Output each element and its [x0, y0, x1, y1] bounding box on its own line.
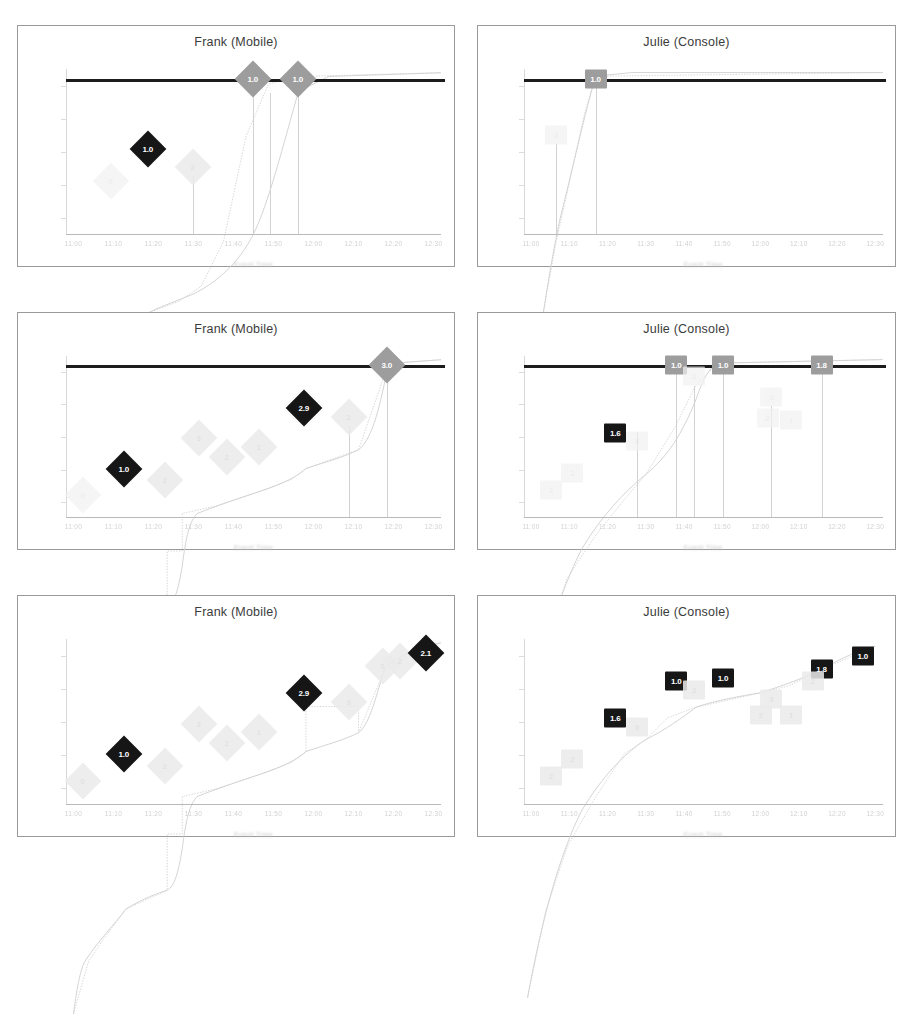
data-point-label: 2 — [191, 162, 195, 171]
data-point-marker: 2 — [561, 749, 583, 768]
x-axis-tick-label: 12:10 — [790, 240, 808, 247]
data-point-marker: 2 — [750, 705, 772, 724]
x-axis-tick-label: 12:00 — [752, 523, 770, 530]
x-axis-tick-label: 12:20 — [828, 240, 846, 247]
chart-title: Frank (Mobile) — [18, 322, 454, 336]
x-axis-title: Event Time — [66, 261, 441, 268]
data-point-label: 2 — [692, 685, 696, 694]
x-axis-tick-label: 11:30 — [185, 810, 202, 817]
x-axis-tick-label: 11:10 — [105, 810, 122, 817]
data-point-label: 2.9 — [299, 404, 310, 413]
data-point-label: 3 — [635, 722, 639, 731]
data-point-marker: 1 — [780, 410, 802, 429]
marker-drop-line — [822, 374, 823, 518]
chart-title: Julie (Console) — [478, 605, 895, 619]
data-point-label: 2 — [549, 486, 553, 495]
x-axis-tick-label: 11:40 — [225, 523, 242, 530]
marker-drop-line — [596, 88, 597, 235]
panel-cell-frank-row3: Frank (Mobile)01.023212.93022.111:0011:1… — [0, 570, 472, 857]
data-point-marker: 1.0 — [852, 647, 874, 666]
data-point-label: 1.0 — [293, 74, 304, 83]
panel-cell-julie-row3: Julie (Console)221.631.021.03211.821.011… — [472, 570, 911, 857]
data-point-marker: 1.0 — [712, 355, 734, 374]
x-axis-tick-label: 11:10 — [561, 810, 578, 817]
marker-drop-line — [694, 386, 695, 519]
x-axis-tick-labels: 11:0011:1011:2011:3011:4011:5012:0012:10… — [524, 523, 883, 535]
x-axis-tick-labels: 11:0011:1011:2011:3011:4011:5012:0012:10… — [66, 523, 441, 535]
data-point-label: 3.0 — [381, 360, 392, 369]
marker-drop-line — [193, 176, 194, 235]
x-axis-tick-label: 12:10 — [345, 240, 363, 247]
marker-drop-line — [270, 93, 271, 235]
x-axis-tick-labels: 11:0011:1011:2011:3011:4011:5012:0012:10… — [66, 240, 441, 252]
x-axis-tick-label: 11:20 — [599, 240, 616, 247]
x-axis-title: Event Time — [66, 831, 441, 838]
x-axis-tick-label: 12:20 — [385, 810, 403, 817]
data-point-label: 0 — [81, 490, 85, 499]
data-point-label: 1.0 — [119, 464, 130, 473]
panel-cell-frank-row2: Frank (Mobile)01.023212.923.011:0011:101… — [0, 287, 472, 570]
x-axis-tick-label: 11:50 — [714, 523, 731, 530]
x-axis-tick-label: 11:30 — [637, 523, 654, 530]
data-point-label: 1.8 — [816, 360, 827, 369]
data-point-label: 1.0 — [119, 750, 130, 759]
x-axis-tick-label: 11:30 — [185, 240, 202, 247]
plot-area: 01.023212.923.011:0011:1011:2011:3011:40… — [66, 365, 441, 518]
x-axis-tick-label: 12:20 — [385, 240, 403, 247]
data-point-label: 0 — [81, 776, 85, 785]
x-axis-tick-label: 12:10 — [345, 523, 363, 530]
plot-area: 21.011:0011:1011:2011:3011:4011:5012:001… — [524, 79, 883, 235]
data-point-marker: 1.0 — [712, 669, 734, 688]
x-axis-tick-label: 12:30 — [425, 523, 443, 530]
x-axis-tick-label: 11:20 — [145, 523, 162, 530]
x-axis — [66, 234, 441, 235]
x-axis-tick-label: 11:50 — [265, 240, 282, 247]
x-axis-tick-label: 11:00 — [65, 240, 82, 247]
data-point-label: 2 — [163, 476, 167, 485]
x-axis-tick-label: 12:20 — [385, 523, 403, 530]
threshold-line — [524, 79, 886, 82]
data-point-label: 1.0 — [858, 652, 869, 661]
plot-area: 01.023212.93022.111:0011:1011:2011:3011:… — [66, 649, 441, 805]
x-axis-tick-label: 11:50 — [265, 810, 282, 817]
x-axis-title: Event Time — [524, 261, 883, 268]
x-axis-tick-label: 11:10 — [105, 523, 122, 530]
data-point-label: 0 — [109, 177, 113, 186]
marker-drop-line — [556, 144, 557, 235]
data-point-label: 3 — [347, 697, 351, 706]
data-point-label: 3 — [197, 719, 201, 728]
x-axis-tick-label: 11:40 — [675, 240, 692, 247]
series-curve — [66, 639, 441, 1014]
x-axis-tick-label: 11:20 — [599, 810, 616, 817]
x-axis-tick-label: 11:30 — [637, 810, 654, 817]
chart-panel-julie-row1: Julie (Console)21.011:0011:1011:2011:301… — [477, 25, 896, 267]
x-axis — [524, 517, 883, 518]
x-axis-tick-label: 11:00 — [65, 523, 82, 530]
x-axis-tick-label: 12:30 — [425, 240, 443, 247]
x-axis-title: Event Time — [66, 544, 441, 551]
data-point-marker: 1 — [780, 705, 802, 724]
data-point-label: 1.0 — [143, 145, 154, 154]
x-axis-tick-label: 11:30 — [185, 523, 202, 530]
panel-cell-frank-row1: Frank (Mobile)01.021.01.011:0011:1011:20… — [0, 0, 472, 287]
data-point-label: 1.6 — [610, 428, 621, 437]
x-axis-tick-label: 11:00 — [522, 523, 539, 530]
x-axis-tick-label: 11:40 — [225, 240, 242, 247]
data-point-marker: 3 — [626, 717, 648, 736]
chart-panel-frank-row1: Frank (Mobile)01.021.01.011:0011:1011:20… — [17, 25, 455, 267]
data-point-label: 2 — [692, 372, 696, 381]
marker-drop-line — [298, 88, 299, 235]
data-point-marker: 2 — [540, 481, 562, 500]
x-axis-tick-label: 12:00 — [305, 523, 323, 530]
x-axis-tick-labels: 11:0011:1011:2011:3011:4011:5012:0012:10… — [66, 810, 441, 822]
x-axis-title: Event Time — [524, 544, 883, 551]
x-axis-tick-label: 11:40 — [675, 523, 692, 530]
data-point-marker: 1.6 — [604, 708, 626, 727]
x-axis — [66, 517, 441, 518]
data-point-marker: 2 — [561, 464, 583, 483]
data-point-marker: 3 — [626, 432, 648, 451]
data-point-label: 1.0 — [248, 74, 259, 83]
marker-drop-line — [387, 374, 388, 518]
chart-panel-julie-row3: Julie (Console)221.631.021.03211.821.011… — [477, 595, 896, 837]
